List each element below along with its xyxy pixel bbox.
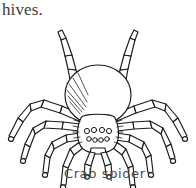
- spider-figure: [0, 18, 196, 188]
- page-text-hives: hives.: [2, 0, 43, 20]
- crab-spider-drawing: [0, 18, 196, 188]
- illustration-page: hives.: [0, 0, 196, 188]
- figure-caption: Crab spider: [64, 166, 146, 181]
